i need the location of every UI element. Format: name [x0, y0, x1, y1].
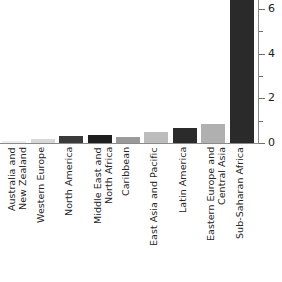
y-axis-major-tick — [259, 54, 265, 55]
x-axis-label: Latin America — [178, 147, 189, 279]
x-axis-label: Western Europe — [36, 147, 47, 279]
y-axis-tick-label: 6 — [268, 3, 275, 14]
x-axis-label: Eastern Europe and Central Asia — [206, 147, 227, 279]
x-axis-label: North America — [64, 147, 75, 279]
bar — [201, 124, 225, 143]
y-axis-tick-label: 0 — [268, 137, 275, 148]
y-axis: 0246 — [255, 0, 282, 148]
y-axis-minor-tick — [259, 31, 263, 32]
x-axis-line — [0, 143, 262, 144]
x-axis-label: East Asia and Pacific — [149, 147, 160, 279]
y-axis-tick-label: 4 — [268, 48, 275, 59]
bars-layer — [0, 0, 256, 144]
y-axis-major-tick — [259, 9, 265, 10]
y-axis-minor-tick — [259, 76, 263, 77]
y-axis-minor-tick — [259, 121, 263, 122]
y-axis-line — [258, 0, 259, 144]
bar — [173, 128, 197, 143]
y-axis-major-tick — [259, 143, 265, 144]
y-axis-tick-label: 2 — [268, 92, 275, 103]
bar — [144, 132, 168, 143]
bar — [88, 135, 112, 143]
x-axis-category-labels: Australia and New ZealandWestern EuropeN… — [0, 147, 256, 282]
bar — [59, 136, 83, 143]
x-axis-label: Sub-Saharan Africa — [235, 147, 246, 279]
x-axis-label: Caribbean — [121, 147, 132, 279]
bar-chart: 0246 Australia and New ZealandWestern Eu… — [0, 0, 282, 282]
x-axis-label: Middle East and North Africa — [93, 147, 114, 279]
y-axis-major-tick — [259, 98, 265, 99]
x-axis-label: Australia and New Zealand — [7, 147, 28, 279]
plot-area — [0, 0, 256, 144]
bar — [230, 0, 254, 143]
